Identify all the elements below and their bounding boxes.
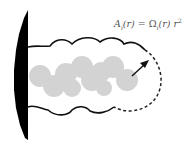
bead-chain <box>29 56 138 97</box>
diagram: Ai(r) = Ωi(r) r2 <box>0 0 192 152</box>
envelope-upper <box>28 38 145 50</box>
wall <box>14 10 28 140</box>
formula-rhs-arg: (r) <box>159 18 171 29</box>
formula-rhs-symbol: Ω <box>149 18 157 29</box>
radius-arrow <box>132 60 149 76</box>
area-formula: Ai(r) = Ωi(r) r2 <box>114 17 182 31</box>
formula-rhs-var: r <box>171 18 179 29</box>
formula-lhs-symbol: A <box>114 18 121 29</box>
formula-rhs-power: 2 <box>178 17 182 24</box>
formula-lhs-arg: (r) <box>123 18 135 29</box>
formula-equals: = <box>135 18 149 29</box>
envelope-lower <box>28 106 114 115</box>
